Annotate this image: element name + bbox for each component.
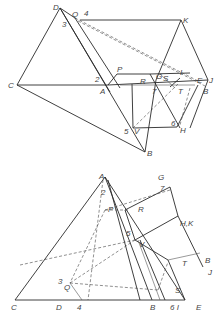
label-S: S [163,74,169,83]
label-D-front: D [56,303,62,312]
label-G-front: G [158,173,164,182]
label-7: 7 [152,87,157,96]
label-3-front: 3 [58,277,63,286]
label-4-front: 4 [77,303,82,312]
label-2-front: 2 [100,188,106,197]
label-A: A [99,87,105,96]
front-view [15,177,203,300]
label-HK-front: H,K [180,219,194,228]
label-3: 3 [62,20,67,29]
label-B: B [147,149,153,158]
label-J-front: J [207,268,213,277]
label-7-front: 7 [160,184,165,193]
label-P-front: P [108,205,114,214]
label-G: G [156,72,162,81]
label-J: J [208,76,214,85]
label-B-front-right: B [205,256,211,265]
label-5: 5 [124,127,129,136]
label-V: V [134,127,140,136]
label-D: D [53,3,59,12]
label-6I-front: 6 I [170,303,180,312]
label-V-front: V [139,240,145,249]
label-Q-front: Q [64,283,70,292]
label-C: C [8,81,14,90]
label-C-front: C [11,303,17,312]
label-R: R [140,77,146,86]
label-4: 4 [84,9,89,18]
label-P: P [117,65,123,74]
label-S-front: S [175,286,181,295]
label-H: H [180,126,186,135]
label-T-front: T [182,259,188,268]
label-R-front: R [138,205,144,214]
label-E-front: E [196,303,202,312]
label-5-front: 5 [126,229,131,238]
label-A-front: A [98,172,104,181]
label-Q: Q [72,10,78,19]
label-6: 6 [171,119,176,128]
label-B-top-right: B [203,87,209,96]
label-T: T [178,87,184,96]
label-2: 2 [94,75,100,84]
descriptive-geometry-diagram: D Q 4 3 K C P 2 A R G S I 7 T E J B 5 V … [0,0,224,319]
label-B-front: B [150,303,156,312]
label-I: I [180,68,183,77]
label-K: K [183,16,189,25]
label-E: E [197,76,203,85]
